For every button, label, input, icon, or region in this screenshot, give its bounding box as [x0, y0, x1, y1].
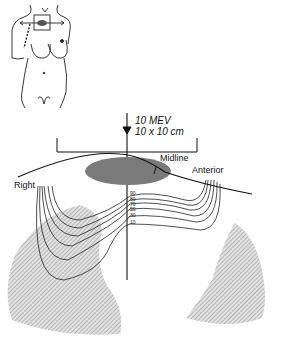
isodose-label-10: 10: [130, 220, 136, 225]
right-label: Right: [14, 181, 35, 190]
torso-figure: [12, 5, 70, 108]
tumor: [85, 157, 171, 185]
field-size-label: 10 x 10 cm: [135, 127, 184, 137]
midline-label: Midline: [160, 154, 189, 163]
anterior-label: Anterior: [192, 166, 224, 175]
isodose-label-30: 30: [130, 213, 136, 218]
right-lung: [8, 205, 122, 335]
beam-energy-label: 10 MEV: [135, 116, 171, 126]
isodose-diagram: [0, 0, 282, 338]
left-lung: [186, 223, 265, 324]
